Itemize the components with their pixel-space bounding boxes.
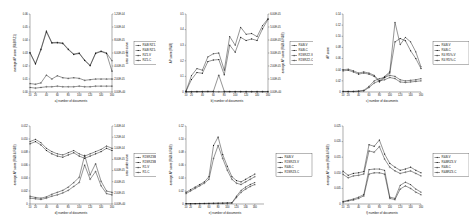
svg-text:120: 120: [398, 205, 403, 209]
svg-text:0.00E+00: 0.00E+00: [114, 90, 126, 94]
svg-text:0.2: 0.2: [181, 59, 185, 63]
panel-e: 00.020.040.060.080.100.12102040608010012…: [156, 112, 312, 224]
svg-text:0.04: 0.04: [335, 68, 341, 72]
svg-text:160: 160: [266, 93, 271, 97]
series-1: [186, 19, 269, 92]
svg-text:5.00E-05: 5.00E-05: [271, 25, 282, 29]
svg-text:1.40E-04: 1.40E-04: [114, 124, 125, 128]
svg-text:0: 0: [339, 202, 341, 206]
svg-text:R&B RZ1-V: R&B RZ1-V: [142, 44, 156, 48]
svg-text:0.02: 0.02: [23, 64, 29, 68]
svg-text:60: 60: [212, 93, 215, 97]
svg-text:0.05: 0.05: [23, 25, 29, 29]
svg-text:R1-C: R1-C: [142, 170, 150, 174]
svg-text:140: 140: [244, 205, 249, 209]
svg-text:RZ1-C: RZ1-C: [142, 58, 152, 62]
svg-text:RZ1-V: RZ1-V: [142, 54, 151, 58]
svg-text:100: 100: [387, 93, 392, 97]
svg-text:140: 140: [408, 205, 413, 209]
axes: [30, 126, 112, 204]
svg-text:0.03: 0.03: [23, 51, 29, 55]
svg-text:area under curve: area under curve: [125, 42, 129, 64]
svg-text:160: 160: [418, 205, 423, 209]
svg-text:0.02: 0.02: [335, 79, 341, 83]
svg-text:average AP score (R&B & R&B): average AP score (R&B & R&B): [169, 145, 173, 186]
svg-text:0: 0: [183, 202, 185, 206]
svg-text:0.012: 0.012: [21, 124, 28, 128]
svg-text:0.06: 0.06: [179, 163, 185, 167]
svg-text:0.14: 0.14: [335, 12, 341, 16]
axes: [30, 14, 112, 92]
svg-text:10: 10: [29, 93, 32, 97]
svg-text:0.12: 0.12: [179, 124, 185, 128]
panel-f: 00.0050.0100.0150.0200.02510204060801001…: [313, 112, 469, 224]
svg-text:160: 160: [253, 205, 258, 209]
svg-text:100: 100: [387, 205, 392, 209]
svg-text:2.00E-05: 2.00E-05: [114, 191, 125, 195]
series-3: [342, 77, 421, 92]
svg-text:R1SRZ2-C: R1SRZ2-C: [299, 58, 313, 62]
svg-text:0.1: 0.1: [181, 74, 185, 78]
svg-text:R&B-V: R&B-V: [441, 44, 450, 48]
svg-text:80: 80: [378, 93, 381, 97]
svg-text:0.4: 0.4: [181, 28, 185, 32]
svg-text:1.00E-04: 1.00E-04: [114, 146, 125, 150]
svg-text:0.015: 0.015: [334, 155, 341, 159]
svg-text:40: 40: [357, 93, 360, 97]
svg-text:0.02: 0.02: [179, 189, 185, 193]
svg-text:0.00E+00: 0.00E+00: [114, 202, 126, 206]
svg-text:R1-V: R1-V: [142, 166, 149, 170]
series-0: [186, 18, 269, 92]
svg-text:average AP score (R&B & R&B): average AP score (R&B & R&B): [326, 145, 330, 186]
svg-text:160: 160: [418, 93, 423, 97]
svg-text:0.04: 0.04: [179, 176, 185, 180]
svg-text:1.00E-05: 1.00E-05: [271, 77, 282, 81]
svg-text:R&BRZ3-V: R&BRZ3-V: [441, 161, 456, 165]
svg-text:e) number of documents: e) number of documents: [209, 211, 242, 215]
series-0: [186, 182, 256, 204]
svg-text:40: 40: [45, 93, 48, 97]
svg-text:8.00E-05: 8.00E-05: [114, 157, 125, 161]
svg-text:R&BRZ3-C: R&BRZ3-C: [441, 170, 457, 174]
svg-text:0.00: 0.00: [23, 90, 29, 94]
panel-b: 00.10.20.30.40.50.00E+001.00E-052.00E-05…: [156, 0, 312, 112]
svg-text:140: 140: [255, 93, 260, 97]
svg-text:R1SRZ3-C: R1SRZ3-C: [285, 170, 300, 174]
svg-text:0.10: 0.10: [179, 137, 185, 141]
svg-text:140: 140: [99, 93, 104, 97]
svg-text:10: 10: [29, 205, 32, 209]
svg-text:0.010: 0.010: [21, 137, 28, 141]
svg-text:0.08: 0.08: [179, 150, 185, 154]
svg-text:8.00E-05: 8.00E-05: [114, 38, 125, 42]
svg-text:0.005: 0.005: [334, 186, 341, 190]
svg-text:10: 10: [341, 93, 344, 97]
series-1: [342, 38, 421, 83]
svg-text:20: 20: [189, 205, 192, 209]
svg-text:0.12: 0.12: [335, 23, 341, 27]
svg-text:R4 R5%-V: R4 R5%-V: [441, 54, 455, 58]
svg-text:40: 40: [357, 205, 360, 209]
svg-text:100: 100: [77, 93, 82, 97]
svg-text:4.00E-05: 4.00E-05: [114, 180, 125, 184]
svg-text:average AP score (R&B RZ1): average AP score (R&B RZ1): [13, 34, 17, 72]
svg-text:average AP score (R&B & R&B): average AP score (R&B & R&B): [13, 145, 17, 186]
svg-text:R&B-V: R&B-V: [441, 156, 450, 160]
svg-text:4.00E-05: 4.00E-05: [114, 64, 125, 68]
svg-text:40: 40: [199, 205, 202, 209]
svg-text:20: 20: [346, 205, 349, 209]
svg-text:0.010: 0.010: [334, 171, 341, 175]
svg-text:120: 120: [88, 205, 93, 209]
svg-text:3.00E-05: 3.00E-05: [271, 51, 282, 55]
svg-text:120: 120: [88, 93, 93, 97]
svg-text:60: 60: [56, 93, 59, 97]
svg-text:60: 60: [56, 205, 59, 209]
svg-text:R4 R5%-C: R4 R5%-C: [441, 58, 456, 62]
svg-text:10: 10: [185, 205, 188, 209]
svg-text:4.00E-05: 4.00E-05: [271, 38, 282, 42]
svg-text:160: 160: [110, 93, 115, 97]
svg-text:R&B-C: R&B-C: [441, 166, 451, 170]
svg-text:60: 60: [367, 205, 370, 209]
svg-text:0.06: 0.06: [335, 56, 341, 60]
svg-text:80: 80: [378, 205, 381, 209]
svg-text:0.00E+00: 0.00E+00: [271, 90, 283, 94]
